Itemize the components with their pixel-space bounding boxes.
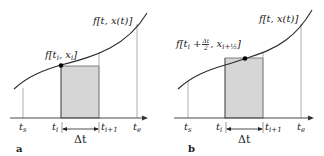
delta-t-label: Δt (74, 134, 86, 145)
tick-t-i: ti (52, 122, 58, 134)
curve-label: f[t, x(t)] (259, 14, 298, 24)
point-label-close: ] (237, 38, 241, 49)
axis-arrow-icon (308, 116, 314, 121)
panel-tag-a: a (16, 143, 22, 154)
tick-t-s: ts (19, 122, 27, 134)
point-label-x: , x (210, 38, 222, 49)
panel-a-euler: f[t, x(t)] f[ti, xi] ts ti ti+1 te Δt a (0, 0, 162, 156)
tick-t-e: te (297, 122, 305, 134)
sample-point (243, 56, 248, 61)
tick-t-i: ti (216, 122, 222, 134)
axis-arrow-icon (142, 116, 148, 121)
area-rectangle (61, 66, 99, 118)
delta-t-label: Δt (238, 134, 250, 145)
tick-t-i-plus-1: ti+1 (265, 122, 282, 134)
tick-t-e: te (133, 122, 141, 134)
point-label-f: f[t (176, 38, 188, 49)
point-label-close: ] (73, 49, 77, 60)
point-label-f: f[t (45, 49, 57, 60)
sample-point (59, 63, 64, 68)
point-label: f[ti, xi] (45, 50, 77, 62)
point-label: f[ti +Δt2, xi+½] (176, 38, 241, 51)
tick-t-s: ts (184, 122, 192, 134)
point-label-sub-half: i+½ (222, 43, 237, 51)
panel-b-midpoint: f[t, x(t)] f[ti +Δt2, xi+½] ts ti ti+1 t… (162, 0, 324, 156)
curve-label: f[t, x(t)] (93, 16, 132, 26)
point-label-x: , x (59, 49, 71, 60)
tick-t-i-plus-1: ti+1 (101, 122, 118, 134)
panel-tag-b: b (188, 143, 195, 154)
area-rectangle (225, 58, 263, 118)
half-step-fraction: Δt2 (202, 38, 209, 51)
point-label-plus: + (190, 38, 202, 49)
